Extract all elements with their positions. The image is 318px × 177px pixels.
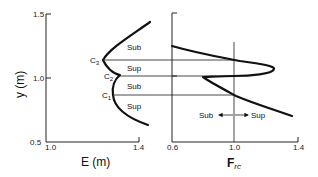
ytick-label-mid: 1.0 bbox=[33, 74, 45, 83]
right-xtick-label-right: 1.4 bbox=[293, 143, 305, 152]
region-label-sup-upper: Sup bbox=[127, 64, 142, 73]
right-xtick-label-left: 0.6 bbox=[167, 143, 179, 152]
left-x-axis-label: E (m) bbox=[81, 155, 110, 169]
xtick-label-right: 1.4 bbox=[133, 143, 145, 152]
left-chart: 1.5 1.0 0.5 1.0 1.4 E (m) y (m) C3 C2 C1… bbox=[13, 10, 150, 169]
critical-point-c1: C1 bbox=[102, 91, 112, 101]
region-label-sup-lower: Sup bbox=[127, 102, 142, 111]
critical-point-c3: C3 bbox=[90, 56, 100, 66]
right-xtick-label-mid: 1.0 bbox=[229, 143, 241, 152]
region-label-sub-lower: Sub bbox=[127, 82, 142, 91]
right-x-axis-label: Frc bbox=[227, 156, 241, 171]
right-chart: 0.6 1.0 1.4 Frc Sub Sup bbox=[167, 13, 305, 171]
left-y-axis-label: y (m) bbox=[13, 71, 27, 98]
froude-curve bbox=[172, 46, 292, 116]
region-label-sub-upper: Sub bbox=[127, 43, 142, 52]
figure: 1.5 1.0 0.5 1.0 1.4 E (m) y (m) C3 C2 C1… bbox=[0, 0, 318, 177]
ytick-label-top: 1.5 bbox=[33, 10, 45, 19]
xtick-label-left: 1.0 bbox=[45, 143, 57, 152]
arrow-label-sub: Sub bbox=[199, 111, 214, 120]
critical-point-c2: C2 bbox=[104, 72, 114, 82]
ytick-label-bottom: 0.5 bbox=[30, 138, 42, 147]
arrow-label-sup: Sup bbox=[251, 111, 266, 120]
